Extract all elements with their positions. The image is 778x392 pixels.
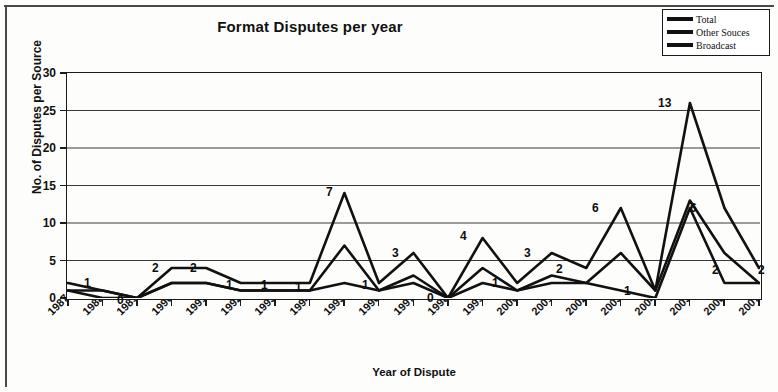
data-point-label: 3 <box>524 247 531 259</box>
series-line-total <box>68 103 759 298</box>
plot-canvas <box>67 73 760 298</box>
legend-label-broadcast: Broadcast <box>696 40 736 51</box>
data-point-label: 2 <box>712 264 719 276</box>
data-point-label: 3 <box>392 247 399 259</box>
chart-title: Format Disputes per year <box>0 18 620 35</box>
y-axis-title: No. of Disputes per Source <box>30 2 44 232</box>
legend-label-other-souces: Other Souces <box>696 27 750 38</box>
legend-item-total: Total <box>667 13 766 25</box>
y-tick-label: 5 <box>34 255 56 267</box>
series-lines <box>68 103 759 298</box>
y-tick-label: 30 <box>34 67 56 79</box>
legend-item-other-souces: Other Souces <box>667 26 766 38</box>
data-point-label: 13 <box>658 97 671 109</box>
data-point-label: 7 <box>326 186 333 198</box>
data-point-label: 2 <box>556 263 563 275</box>
data-point-label: 2 <box>190 262 197 274</box>
x-axis-title: Year of Dispute <box>66 366 762 378</box>
data-point-label: 0 <box>117 294 124 306</box>
legend-swatch-other-souces-icon <box>667 30 693 34</box>
y-tick-label: 25 <box>34 105 56 117</box>
y-tick-label: 15 <box>34 180 56 192</box>
page-top-rule <box>4 5 774 7</box>
data-point-label: 1 <box>84 277 91 289</box>
legend-swatch-broadcast-icon <box>667 43 693 47</box>
data-point-label: 1 <box>362 279 369 291</box>
data-point-label: 1 <box>261 279 268 291</box>
legend-item-broadcast: Broadcast <box>667 39 766 51</box>
chart-figure: Format Disputes per year Total Other Sou… <box>0 0 778 392</box>
data-point-label: 4 <box>460 230 467 242</box>
data-point-label: 1 <box>492 277 499 289</box>
y-tick-label: 10 <box>34 217 56 229</box>
page-left-rule <box>5 5 7 387</box>
legend-swatch-total-icon <box>667 17 693 21</box>
legend-label-total: Total <box>696 14 716 25</box>
gridlines <box>67 111 760 261</box>
data-point-label: 2 <box>758 264 765 276</box>
data-point-label: 1 <box>226 279 233 291</box>
y-tick-label: 20 <box>34 142 56 154</box>
data-point-label: 6 <box>592 202 599 214</box>
data-point-label: 1 <box>624 285 631 297</box>
chart-legend: Total Other Souces Broadcast <box>662 9 770 56</box>
data-point-label: 2 <box>152 262 159 274</box>
data-point-label: 0 <box>427 292 434 304</box>
data-point-label: 1 <box>295 281 302 293</box>
data-point-label: 6 <box>690 202 697 214</box>
